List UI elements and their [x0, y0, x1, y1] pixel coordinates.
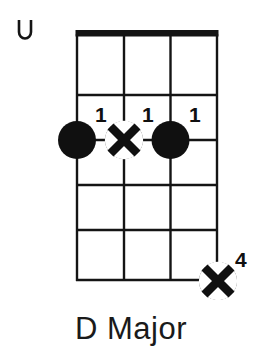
filled-dot-icon	[152, 121, 190, 159]
finger-number-string4: 4	[235, 249, 246, 270]
x-in-circle-icon	[199, 262, 237, 300]
chord-title: D Major	[0, 310, 262, 348]
finger-number-string2: 1	[142, 104, 153, 125]
filled-dot-icon	[58, 121, 96, 159]
finger-number-string1: 1	[95, 104, 106, 125]
x-in-circle-icon	[105, 121, 143, 159]
nut	[76, 30, 219, 37]
fretboard-grid	[0, 0, 262, 300]
finger-number-string3: 1	[189, 104, 200, 125]
string-lines	[77, 34, 217, 281]
chord-diagram: 1 1 1 4 D Major	[0, 0, 262, 355]
